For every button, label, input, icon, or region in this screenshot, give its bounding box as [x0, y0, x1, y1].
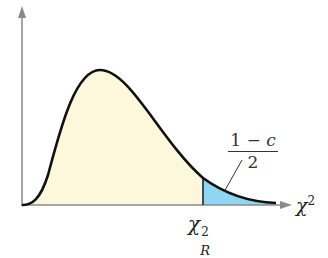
x-axis-arrow-icon	[280, 201, 292, 209]
x-axis-label-base: χ	[296, 194, 308, 216]
tail-area-label: 1 − c 2	[228, 130, 278, 172]
fraction-denominator: 2	[228, 152, 278, 172]
numerator-c: c	[266, 130, 276, 150]
numerator-minus: −	[241, 130, 266, 150]
fraction-numerator: 1 − c	[228, 130, 278, 152]
x-axis-label: χ2	[296, 194, 315, 216]
critical-value-sup: 2	[201, 225, 209, 239]
numerator-one: 1	[230, 130, 241, 150]
x-axis-label-sup: 2	[308, 194, 316, 208]
critical-value-base: χ	[188, 212, 200, 236]
critical-value-label: χ2R	[188, 212, 212, 236]
central-region-fill	[22, 70, 203, 205]
y-axis-arrow-icon	[18, 6, 26, 18]
critical-value-sub: R	[200, 243, 210, 258]
